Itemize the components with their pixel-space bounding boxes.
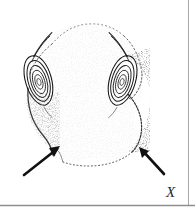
- figure-panel: X: [0, 0, 195, 217]
- arrow-left-icon: [24, 146, 60, 175]
- arrow-right-icon: [139, 147, 164, 174]
- x-axis-label: X: [166, 185, 175, 200]
